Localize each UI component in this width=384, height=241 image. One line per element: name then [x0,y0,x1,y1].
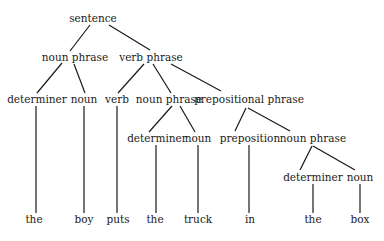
tree-edge-pp-prep [235,108,246,131]
tree-node-vp: verb phrase [119,52,183,63]
tree-node-det2: determiner [127,133,187,144]
tree-node-prep: preposition [220,133,280,144]
tree-edge-np1-det1 [37,63,62,93]
tree-edge-pp-np3 [248,108,290,131]
tree-node-v: verb [105,94,129,105]
leaf-word-w1: the [25,214,42,225]
tree-node-pp: prepositional phrase [194,94,304,105]
tree-node-det1: determiner [7,94,67,105]
tree-edge-np1-n1 [74,64,85,93]
tree-node-np3: noun phrase [280,133,346,144]
tree-edge-s-vp [109,25,150,50]
tree-edge-vp-pp [171,64,221,91]
leaf-word-w6: in [245,214,255,225]
tree-node-s: sentence [69,13,117,24]
leaf-word-w7: the [304,214,321,225]
parse-tree-diagram: sentencenoun phraseverb phrasedeterminer… [0,0,384,241]
leaf-word-w4: the [146,214,163,225]
tree-node-n2: noun [185,133,212,144]
tree-edge-np3-det3 [300,146,312,170]
leaf-word-w8: box [351,214,370,225]
tree-edge-vp-v [118,64,144,93]
tree-edges [0,0,384,241]
tree-node-n1: noun [71,94,98,105]
tree-edge-vp-np2 [153,64,171,93]
leaf-word-w5: truck [184,214,212,225]
tree-node-det3: determiner [283,172,343,183]
leaf-word-w2: boy [75,214,94,225]
tree-node-np1: noun phrase [42,52,108,63]
tree-edge-np2-det2 [149,106,172,132]
leaf-word-w3: puts [106,214,129,225]
tree-edge-np2-n2 [180,106,195,132]
tree-node-np2: noun phrase [136,94,202,105]
tree-edge-s-np1 [70,25,90,51]
tree-node-n3: noun [347,172,374,183]
tree-edge-np3-n3 [313,146,355,170]
